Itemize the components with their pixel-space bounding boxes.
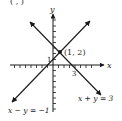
x-tick-label-3: 3	[72, 70, 76, 78]
system-of-equations-graph: ( , ) y x (1, 2) 1 3 x + y = 3 x − y = −…	[0, 0, 122, 121]
equation-label-x-plus-y: x + y = 3	[78, 94, 114, 103]
y-tick-label-1: 1	[47, 56, 51, 64]
line-x-plus-y-eq-3	[30, 22, 101, 95]
x-axis-label: x	[107, 61, 112, 70]
top-fragment-text: ( , )	[10, 0, 24, 6]
intersection-label: (1, 2)	[64, 48, 86, 57]
y-axis-label: y	[49, 5, 55, 14]
y-axis	[53, 14, 56, 112]
x-axis	[10, 65, 104, 68]
equation-label-x-minus-y: x − y = −1	[8, 106, 50, 115]
intersection-point	[58, 50, 62, 54]
